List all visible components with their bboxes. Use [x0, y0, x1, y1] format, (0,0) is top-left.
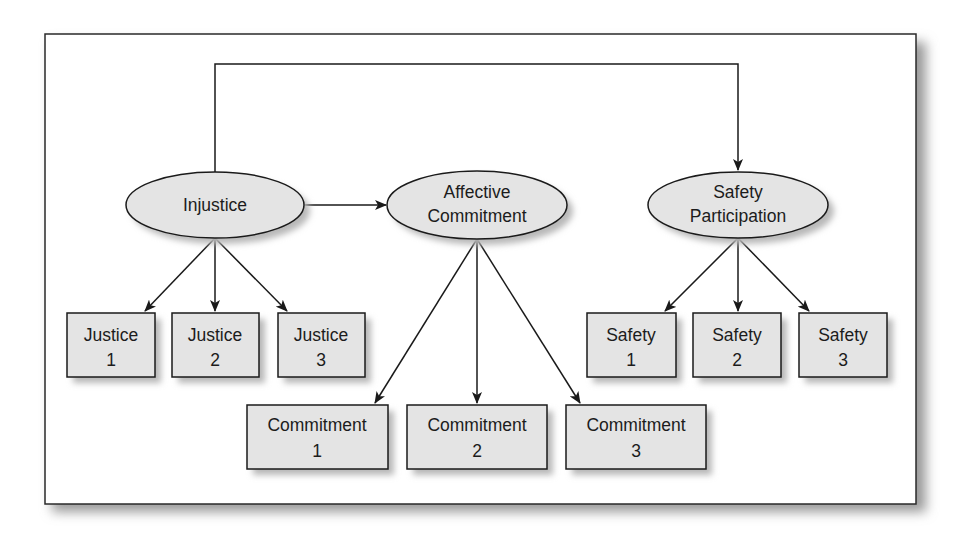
indicator-justice2: Justice 2 — [172, 313, 265, 383]
indicator-safety2: Safety 2 — [693, 313, 787, 383]
indicator-label-line1: Safety — [606, 325, 656, 345]
indicator-label-line2: 2 — [732, 350, 742, 370]
latent-label-line1: Safety — [713, 182, 763, 202]
indicator-label-line1: Justice — [188, 325, 242, 345]
indicator-label-line1: Commitment — [427, 415, 526, 435]
indicator-safety3: Safety 3 — [799, 313, 893, 383]
indicator-label-line2: 2 — [472, 441, 482, 461]
indicator-commitment3: Commitment 3 — [566, 405, 712, 475]
indicator-label-line1: Commitment — [267, 415, 366, 435]
indicator-label-line2: 1 — [106, 350, 116, 370]
indicator-commitment2: Commitment 2 — [407, 405, 553, 475]
indicator-commitment1: Commitment 1 — [247, 405, 394, 475]
indicator-label-line1: Justice — [294, 325, 348, 345]
sem-diagram: Injustice Affective Commitment Safety Pa… — [0, 0, 962, 545]
latent-label-line2: Commitment — [427, 206, 526, 226]
indicator-label-line2: 1 — [626, 350, 636, 370]
indicator-justice3: Justice 3 — [278, 313, 371, 383]
indicator-label-line2: 3 — [838, 350, 848, 370]
latent-label-line2: Participation — [690, 206, 786, 226]
indicator-justice1: Justice 1 — [67, 313, 161, 383]
latent-label-line1: Affective — [444, 182, 511, 202]
latent-label: Injustice — [183, 195, 247, 215]
indicator-label-line1: Safety — [712, 325, 762, 345]
indicator-label-line2: 2 — [210, 350, 220, 370]
indicator-label-line2: 3 — [316, 350, 326, 370]
indicator-label-line1: Commitment — [586, 415, 685, 435]
indicator-label-line2: 3 — [631, 441, 641, 461]
indicator-label-line1: Justice — [84, 325, 138, 345]
indicator-label-line2: 1 — [312, 441, 322, 461]
indicator-safety1: Safety 1 — [587, 313, 682, 383]
indicator-label-line1: Safety — [818, 325, 868, 345]
